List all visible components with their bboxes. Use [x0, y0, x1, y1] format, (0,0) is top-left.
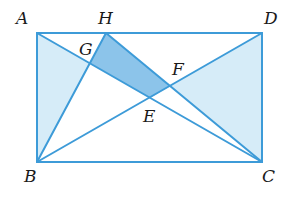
point-label-G: G — [79, 39, 93, 59]
point-label-D: D — [263, 8, 278, 28]
point-label-F: F — [171, 59, 185, 79]
point-label-A: A — [14, 8, 28, 28]
shaded-quad-HGEF — [90, 33, 170, 98]
point-label-C: C — [262, 166, 275, 186]
point-label-B: B — [23, 166, 37, 186]
point-label-H: H — [97, 8, 114, 28]
point-label-E: E — [142, 106, 156, 126]
geometry-diagram: AHDBCGFE — [0, 0, 292, 204]
